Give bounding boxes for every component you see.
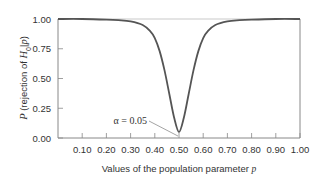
power-curve-chart: 0.000.250.500.751.00 0.100.200.300.400.5… — [0, 0, 326, 184]
x-tick-label: 0.80 — [242, 144, 261, 155]
y-tick-label: 0.50 — [33, 73, 52, 84]
power-curve-line — [58, 19, 300, 132]
plot-frame — [58, 19, 300, 138]
y-tick-label: 1.00 — [33, 14, 52, 25]
x-tick-label: 0.10 — [73, 144, 92, 155]
y-tick-label: 0.75 — [33, 43, 52, 54]
annotation-leader-line — [149, 121, 178, 136]
alpha-annotation: α = 0.05 — [114, 115, 178, 136]
x-tick-label: 0.70 — [218, 144, 237, 155]
x-tick-label: 0.40 — [146, 144, 165, 155]
x-tick-label: 1.00 — [291, 144, 310, 155]
x-tick-label: 0.60 — [194, 144, 213, 155]
x-tick-label: 0.50 — [170, 144, 189, 155]
annotation-label: α = 0.05 — [114, 115, 147, 126]
y-axis-title: P (rejection of H0|p) — [18, 36, 32, 121]
x-ticks: 0.100.200.300.400.500.600.700.800.901.00 — [73, 133, 309, 155]
x-tick-label: 0.20 — [97, 144, 116, 155]
x-axis-title: Values of the population parameter p — [102, 163, 257, 174]
x-tick-label: 0.90 — [267, 144, 286, 155]
x-tick-label: 0.30 — [121, 144, 140, 155]
y-tick-label: 0.25 — [33, 103, 52, 114]
y-tick-label: 0.00 — [33, 133, 52, 144]
